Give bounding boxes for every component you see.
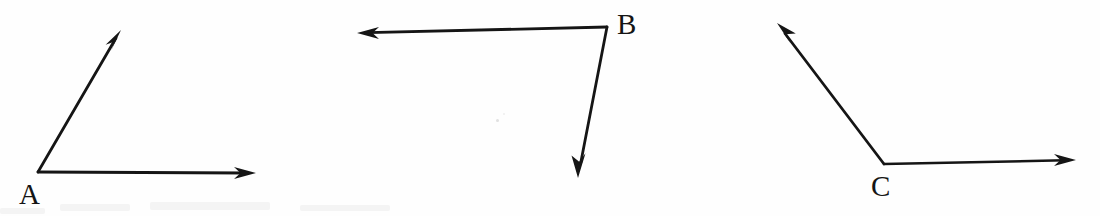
scan-smudge [150,202,270,210]
scan-smudge [60,204,130,211]
ray-b-left-shaft [368,27,607,33]
vertex-label-a: A [19,180,40,209]
ray-a-up-arrowhead [106,30,121,51]
ray-c-right-shaft [884,160,1065,164]
scan-smudge [300,205,390,211]
ray-b-down-arrowhead [572,153,586,178]
ray-c-upleft-arrowhead [777,23,796,43]
scan-smudge [0,208,45,214]
angles-diagram [0,0,1100,216]
ray-a-up-shaft [38,38,116,172]
angle-c-group [777,23,1076,166]
angle-a-group [38,30,256,179]
vertex-label-b: B [617,10,636,39]
ray-a-right-shaft [38,172,246,173]
scan-speck [503,113,505,115]
angle-b-group [357,27,607,178]
ray-c-upleft-shaft [785,34,884,165]
vertex-label-c: C [871,172,890,201]
ray-b-down-shaft [581,27,608,164]
scan-speck [496,119,499,122]
figure-canvas: A B C [0,0,1100,216]
